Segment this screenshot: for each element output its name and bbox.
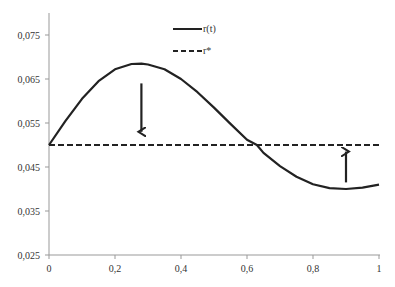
legend: r(t) r* (173, 23, 216, 56)
x-tick-label: 0,6 (241, 263, 254, 274)
chart-canvas: 0,0250,0350,0450,0550,0650,075 00,20,40,… (0, 0, 395, 287)
x-tick-label: 0,4 (175, 263, 188, 274)
y-tick-label: 0,045 (18, 162, 41, 173)
y-tick-label: 0,025 (18, 250, 41, 261)
y-tick-label: 0,055 (18, 118, 41, 129)
x-tick-label: 0,8 (307, 263, 320, 274)
x-tick-label: 0 (47, 263, 52, 274)
plot-area (49, 64, 379, 189)
annotations (141, 83, 346, 182)
y-tick-label: 0,075 (18, 30, 41, 41)
x-tick-label: 0,2 (109, 263, 122, 274)
x-tick-label: 1 (377, 263, 382, 274)
legend-label-rt: r(t) (203, 23, 216, 35)
y-tick-label: 0,065 (18, 74, 41, 85)
y-tick-label: 0,035 (18, 206, 41, 217)
legend-label-rstar: r* (203, 45, 211, 56)
axes: 0,0250,0350,0450,0550,0650,075 00,20,40,… (18, 13, 382, 274)
series-r-t (49, 64, 379, 189)
